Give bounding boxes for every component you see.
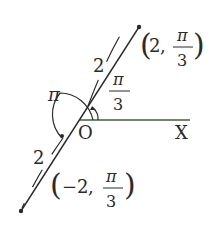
point-lower-comma: , <box>88 176 94 197</box>
angle-label-pi3-den: 3 <box>113 95 123 114</box>
angle-label-pi3-num: π <box>112 70 124 89</box>
point-lower-open-paren: ( <box>50 167 62 202</box>
origin-label: O <box>78 122 93 143</box>
point-lower-close-paren: ) <box>124 167 136 202</box>
point-upper-theta-num: π <box>176 26 188 45</box>
point-upper-close-paren: ) <box>193 27 205 62</box>
distance-label-upper: 2 <box>93 55 104 76</box>
distance-label-lower: 2 <box>33 147 44 168</box>
arc-arrow-dot <box>60 134 64 138</box>
angle-label-pi: π <box>47 84 61 105</box>
polar-diagram: O X 2 2 π π 3 ( 2 , π 3 ) ( −2 , π 3 ) <box>0 0 216 231</box>
point-lower-r: −2 <box>62 176 89 197</box>
point-lower-theta-num: π <box>105 167 117 186</box>
point-lower <box>19 209 23 213</box>
arc-arrowhead <box>90 106 96 110</box>
point-upper-theta-den: 3 <box>177 51 187 70</box>
point-lower-theta-den: 3 <box>106 192 116 211</box>
point-upper-comma: , <box>160 35 166 56</box>
axis-label: X <box>175 122 188 143</box>
point-upper-r: 2 <box>149 35 160 56</box>
